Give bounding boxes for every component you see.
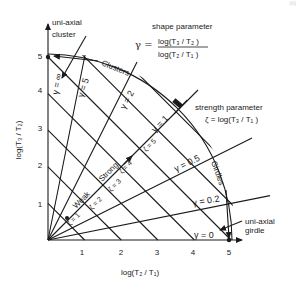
woodcock-diagram: 1 2 3 4 5 1 2 3 4 5 log(T₂ / T₁) log(T₃ … xyxy=(0,0,298,288)
girdles-label: Girdles xyxy=(209,160,226,187)
gamma-0-label: γ = 0 xyxy=(194,230,214,240)
clusters-label: Clusters xyxy=(100,59,131,78)
gamma-0.5-line xyxy=(48,138,252,240)
svg-text:2: 2 xyxy=(119,248,124,257)
uniaxial-girdle-label-1: uni-axial xyxy=(245,217,275,226)
svg-text:2: 2 xyxy=(38,161,43,170)
x-axis-label: log(T₂ / T₁) xyxy=(121,268,159,277)
y-tick-labels: 1 2 3 4 5 xyxy=(38,52,43,209)
svg-text:3: 3 xyxy=(155,248,160,257)
gamma-1-label: γ = 1 xyxy=(149,113,170,134)
shape-parameter-symbol: γ = xyxy=(135,39,153,50)
uniaxial-girdle-point xyxy=(227,238,231,242)
svg-text:5: 5 xyxy=(227,248,232,257)
strength-parameter-formula: ζ = log(T₃ / T₁ ) xyxy=(205,115,258,124)
gamma-5-label: γ = 5 xyxy=(75,77,91,99)
uniaxial-cluster-point xyxy=(46,55,50,59)
x-tick-labels: 1 2 3 4 5 xyxy=(80,248,232,257)
gamma-2-line xyxy=(48,62,137,240)
uniaxial-cluster-label-2: cluster xyxy=(52,30,76,39)
gamma-2-label: γ = 2 xyxy=(118,89,136,111)
svg-text:3: 3 xyxy=(38,124,43,133)
zeta-5-label: ζ = 5 xyxy=(142,137,158,153)
zeta-4-label: ζ = 4 xyxy=(118,159,134,175)
uniaxial-cluster-label-1: uni-axial xyxy=(52,18,82,27)
svg-text:1: 1 xyxy=(80,248,85,257)
strength-parameter-title: strength parameter xyxy=(195,103,263,112)
zeta-1-label: ζ = 1 xyxy=(66,211,82,227)
gamma-0.2-label: γ = 0.2 xyxy=(192,193,221,208)
uniaxial-girdle-label-2: girdle xyxy=(245,226,265,235)
gamma-inf-label: γ = ∞ xyxy=(50,73,64,96)
zeta-labels: ζ = 1 ζ = 2 ζ = 3 ζ = 4 ζ = 5 xyxy=(66,137,158,227)
svg-text:1: 1 xyxy=(38,200,43,209)
shape-parameter-denominator: log(T₂ / T₁ ) xyxy=(158,50,199,59)
shape-parameter-title: shape parameter xyxy=(152,22,213,31)
svg-text:5: 5 xyxy=(38,52,43,61)
svg-text:4: 4 xyxy=(38,86,43,95)
shape-parameter-numerator: log(T₃ / T₂ ) xyxy=(158,37,199,46)
svg-text:4: 4 xyxy=(191,248,196,257)
y-axis-label: log(T₃ / T₂) xyxy=(14,120,23,159)
